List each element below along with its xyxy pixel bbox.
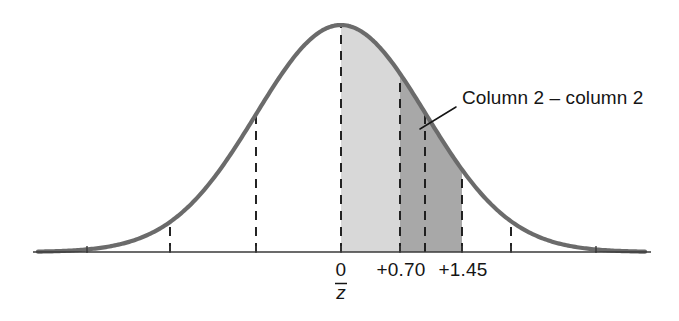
axis-label-plus-145: +1.45 <box>438 259 487 280</box>
axis-label-plus-070: +0.70 <box>376 259 425 280</box>
shaded-regions-group <box>341 0 462 252</box>
distribution-chart-svg: 0 +0.70 +1.45 z Column 2 – column 2 <box>0 0 679 321</box>
normal-distribution-figure: 0 +0.70 +1.45 z Column 2 – column 2 <box>0 0 679 321</box>
dashed-gridlines-group <box>87 26 596 252</box>
mean-symbol: z <box>335 282 347 303</box>
axis-label-zero: 0 <box>336 259 347 280</box>
annotation-label: Column 2 – column 2 <box>462 87 643 108</box>
mean-symbol-letter: z <box>335 282 346 303</box>
